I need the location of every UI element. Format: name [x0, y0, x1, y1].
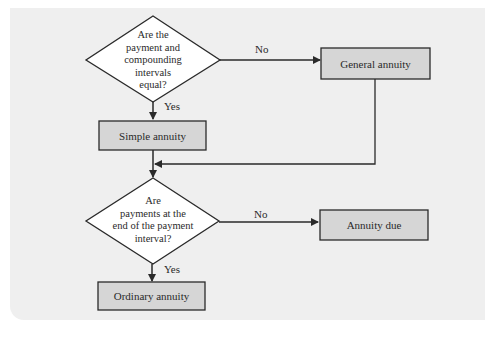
- decision-1-line: payment and: [103, 42, 203, 55]
- edge-label-d2-no: No: [254, 208, 267, 221]
- edge-label-d1-yes: Yes: [164, 100, 180, 113]
- decision-2-line: Are: [93, 195, 213, 208]
- ordinary-annuity-label: Ordinary annuity: [98, 282, 205, 310]
- decision-2-text: Are payments at the end of the payment i…: [93, 195, 213, 245]
- simple-annuity-label: Simple annuity: [99, 121, 206, 150]
- decision-1-line: Are the: [103, 29, 203, 42]
- edge-label-d1-no: No: [255, 43, 268, 56]
- decision-2-line: payments at the: [93, 208, 213, 221]
- annuity-due-label: Annuity due: [320, 210, 428, 240]
- decision-1-line: equal?: [103, 79, 203, 92]
- decision-2-line: end of the payment: [93, 220, 213, 233]
- decision-1-text: Are the payment and compounding interval…: [103, 29, 203, 92]
- edge-label-d2-yes: Yes: [164, 263, 180, 276]
- decision-2-line: interval?: [93, 233, 213, 246]
- decision-1-line: intervals: [103, 67, 203, 80]
- decision-1-line: compounding: [103, 54, 203, 67]
- general-annuity-label: General annuity: [321, 48, 430, 79]
